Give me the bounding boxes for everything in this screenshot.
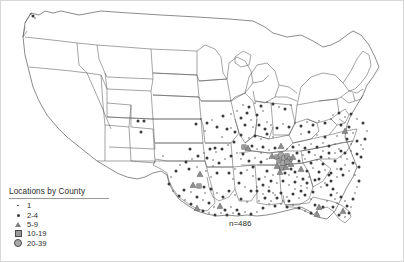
- location-marker: [228, 190, 231, 193]
- location-marker: [206, 122, 209, 125]
- location-marker: [190, 182, 196, 188]
- location-marker: [302, 154, 303, 155]
- location-marker: [238, 182, 241, 185]
- location-marker: [168, 183, 171, 186]
- location-marker: [220, 212, 221, 213]
- location-marker: [244, 186, 245, 187]
- location-marker: [230, 206, 231, 207]
- location-marker: [224, 158, 225, 159]
- location-marker: [285, 160, 289, 164]
- location-marker: [242, 153, 245, 156]
- location-marker: [286, 206, 289, 209]
- location-marker: [268, 203, 269, 204]
- location-marker: [200, 118, 201, 119]
- location-marker: [346, 158, 347, 159]
- location-marker: [316, 204, 322, 210]
- location-marker: [350, 206, 351, 207]
- location-marker: [330, 118, 331, 119]
- location-marker: [272, 136, 273, 137]
- location-marker: [197, 155, 200, 158]
- location-marker: [211, 119, 212, 120]
- location-marker: [276, 197, 279, 200]
- location-marker: [240, 158, 241, 159]
- location-marker: [242, 104, 243, 105]
- location-marker: [262, 193, 263, 194]
- location-marker: [216, 192, 217, 193]
- location-marker: [288, 174, 289, 175]
- location-marker: [308, 176, 309, 177]
- location-marker: [204, 130, 205, 131]
- location-marker: [272, 192, 273, 193]
- sample-size-label: n=486: [229, 219, 251, 228]
- location-marker: [340, 208, 346, 214]
- location-marker: [264, 197, 267, 200]
- location-marker: [344, 152, 347, 155]
- location-marker: [346, 138, 349, 141]
- location-marker: [330, 180, 333, 183]
- location-marker: [246, 169, 247, 170]
- legend-label-5: 20-39: [27, 239, 46, 248]
- location-marker: [190, 203, 193, 206]
- location-marker: [310, 143, 311, 144]
- legend-item-4: 10-19: [9, 229, 113, 238]
- location-marker: [234, 168, 235, 169]
- location-marker: [316, 134, 317, 135]
- location-marker: [328, 174, 331, 177]
- location-marker: [294, 171, 297, 174]
- location-marker: [288, 200, 291, 203]
- location-marker: [348, 126, 351, 129]
- location-marker: [280, 192, 283, 195]
- location-marker: [256, 211, 257, 212]
- location-marker: [240, 134, 243, 137]
- location-marker: [340, 150, 343, 153]
- location-marker: [300, 133, 301, 134]
- location-marker: [286, 148, 287, 149]
- location-marker: [236, 152, 237, 153]
- location-marker: [312, 167, 313, 168]
- location-marker: [298, 207, 301, 210]
- location-marker: [212, 159, 213, 160]
- location-marker: [262, 146, 265, 149]
- location-marker: [278, 143, 284, 149]
- location-marker: [272, 174, 273, 175]
- location-marker: [286, 196, 287, 197]
- location-marker: [304, 158, 305, 159]
- location-marker: [269, 153, 275, 159]
- location-marker: [30, 13, 31, 14]
- location-marker: [250, 190, 253, 193]
- location-marker: [195, 123, 198, 126]
- location-marker: [183, 189, 186, 192]
- location-marker: [274, 147, 277, 150]
- location-marker: [256, 186, 257, 187]
- location-marker: [350, 143, 351, 144]
- location-marker: [360, 156, 363, 159]
- location-marker: [316, 159, 317, 160]
- location-marker: [330, 194, 333, 197]
- location-marker: [314, 154, 315, 155]
- location-marker: [296, 176, 297, 177]
- location-marker: [346, 205, 349, 208]
- location-marker: [342, 174, 345, 177]
- location-marker: [260, 105, 263, 108]
- location-marker: [266, 121, 267, 122]
- location-marker: [334, 198, 335, 199]
- legend-label-3: 5-9: [27, 220, 38, 229]
- location-marker: [246, 112, 249, 115]
- location-marker: [226, 214, 229, 217]
- location-marker: [274, 205, 277, 208]
- legend-label-1: 1: [27, 201, 31, 210]
- location-marker: [336, 135, 337, 136]
- location-marker: [185, 161, 188, 164]
- location-marker: [294, 188, 295, 189]
- location-marker: [282, 123, 283, 124]
- location-marker: [322, 142, 323, 143]
- location-marker: [222, 196, 225, 199]
- location-marker: [338, 214, 341, 217]
- location-marker: [254, 102, 255, 103]
- location-marker: [203, 152, 204, 153]
- location-marker: [280, 203, 281, 204]
- location-marker: [366, 130, 367, 131]
- location-marker: [336, 202, 337, 203]
- location-marker: [356, 153, 359, 156]
- location-marker: [270, 124, 271, 125]
